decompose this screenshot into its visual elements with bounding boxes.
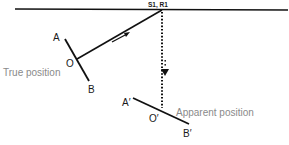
apparent-position-caption: Apparent position xyxy=(176,107,254,118)
ray-line xyxy=(77,10,162,59)
label-o-prime: O′ xyxy=(149,113,159,124)
surface-line xyxy=(15,9,288,10)
label-o: O xyxy=(66,58,74,69)
label-a: A xyxy=(53,32,60,43)
label-b-prime: B′ xyxy=(183,128,192,139)
label-b: B xyxy=(88,84,95,95)
migration-diagram: S1, R1 A O B True position A′ O′ B′ Appa… xyxy=(0,0,289,145)
source-receiver-label: S1, R1 xyxy=(148,1,168,9)
true-position-caption: True position xyxy=(3,67,60,78)
label-a-prime: A′ xyxy=(122,97,131,108)
